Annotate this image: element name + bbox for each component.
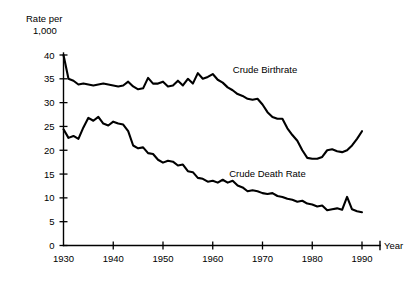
series-line-crude-birthrate (64, 55, 363, 159)
y-tick-label: 20 (44, 145, 55, 156)
x-tick-label: 1970 (252, 253, 273, 264)
y-tick-label: 30 (44, 97, 55, 108)
x-axis-caption: Year (384, 240, 403, 251)
y-axis-caption-line1: Rate per (26, 13, 62, 24)
x-tick-label: 1930 (53, 253, 74, 264)
chart-figure: Rate per 1,000 0510152025303540 19301940… (0, 0, 407, 285)
y-tick-label: 0 (49, 240, 54, 251)
y-tick-label: 5 (49, 216, 54, 227)
x-tick-label: 1990 (351, 253, 372, 264)
y-tick-label: 25 (44, 121, 55, 132)
y-tick-label: 40 (44, 50, 55, 61)
y-tick-label: 15 (44, 169, 55, 180)
series-line-crude-death-rate (64, 117, 363, 212)
series-label-crude-birthrate: Crude Birthrate (233, 64, 297, 75)
x-tick-label: 1980 (302, 253, 323, 264)
x-tick-label: 1940 (103, 253, 124, 264)
y-axis-caption: Rate per 1,000 (26, 13, 62, 36)
y-tick-label: 35 (44, 73, 55, 84)
x-tick-label: 1960 (202, 253, 223, 264)
x-tick-label: 1950 (152, 253, 173, 264)
series-label-crude-death-rate: Crude Death Rate (229, 168, 306, 179)
y-tick-label: 10 (44, 192, 55, 203)
y-axis-caption-line2: 1,000 (33, 25, 57, 36)
line-chart-svg: Rate per 1,000 0510152025303540 19301940… (0, 0, 407, 285)
